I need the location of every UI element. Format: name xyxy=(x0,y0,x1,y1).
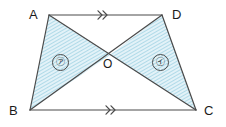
geometry-figure: A B C D O ㋐ ㋑ xyxy=(0,0,226,127)
vertex-label-a: A xyxy=(29,8,38,21)
vertex-label-d: D xyxy=(172,8,181,21)
vertex-label-b: B xyxy=(9,104,18,117)
intersection-label-o: O xyxy=(103,58,112,70)
vertex-label-c: C xyxy=(204,104,213,117)
region-label-a: ㋐ xyxy=(52,54,69,71)
region-label-i: ㋑ xyxy=(152,54,169,71)
